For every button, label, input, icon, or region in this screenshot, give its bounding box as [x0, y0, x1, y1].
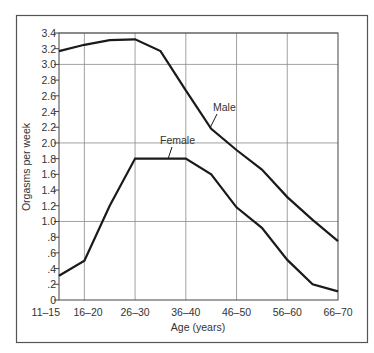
y-tick-label: 1.0: [41, 215, 56, 227]
x-axis-title: Age (years): [171, 321, 225, 333]
y-tick-label: 2.0: [41, 137, 56, 149]
y-tick-label: 3.2: [41, 43, 56, 55]
y-tick-label: 2.8: [41, 74, 56, 86]
y-axis-ticks: 0.2.4.6.81.01.21.41.61.82.02.22.42.62.83…: [41, 27, 59, 306]
x-tick-label: 56–60: [273, 306, 302, 318]
y-tick-label: .6: [47, 247, 56, 259]
female-label: Female: [160, 134, 195, 146]
y-tick-label: 1.6: [41, 168, 56, 180]
y-tick-label: 3.0: [41, 58, 56, 70]
y-tick-label: 1.2: [41, 200, 56, 212]
x-tick-label: 26–30: [120, 306, 149, 318]
female-line: [59, 159, 338, 292]
series-lines: [59, 39, 338, 291]
y-axis-title: Orgasms per week: [20, 122, 32, 211]
y-tick-label: 2.4: [41, 106, 56, 118]
x-tick-label: 66–70: [323, 306, 352, 318]
chart: 0.2.4.6.81.01.21.41.61.82.02.22.42.62.83…: [0, 0, 374, 353]
x-tick-label: 46–50: [222, 306, 251, 318]
x-tick-label: 36–40: [171, 306, 200, 318]
y-tick-label: .8: [47, 231, 56, 243]
male-line: [59, 39, 338, 241]
y-tick-label: 1.4: [41, 184, 56, 196]
y-tick-label: .4: [47, 263, 56, 275]
female-label-leader: [168, 147, 172, 159]
y-tick-label: 2.6: [41, 90, 56, 102]
x-axis-ticks: 11–1516–2026–3036–4046–5056–6066–70: [32, 306, 353, 318]
y-tick-label: 0: [50, 294, 56, 306]
male-label: Male: [213, 101, 236, 113]
y-tick-label: .2: [47, 278, 56, 290]
x-tick-label: 16–20: [73, 306, 102, 318]
y-tick-label: 3.4: [41, 27, 56, 39]
y-tick-label: 1.8: [41, 153, 56, 165]
x-tick-label: 11–15: [32, 306, 61, 318]
male-label-leader: [210, 114, 217, 128]
y-tick-label: 2.2: [41, 121, 56, 133]
